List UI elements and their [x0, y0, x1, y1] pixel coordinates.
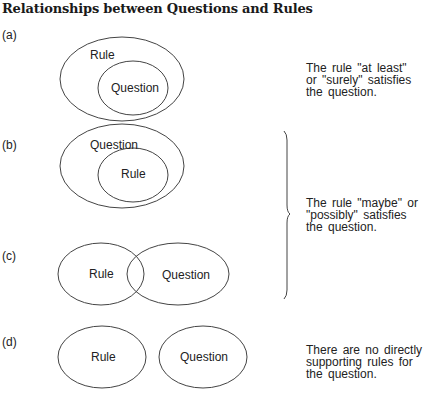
description-line: the question.	[306, 367, 377, 381]
description-a: The rule "at least" or "surely" satisfie…	[306, 62, 411, 98]
description-line: the question.	[306, 85, 377, 99]
description-d: There are no directly supporting rules f…	[306, 344, 422, 380]
question-outer-ellipse	[60, 124, 184, 208]
rule-label: Rule	[91, 350, 116, 364]
panel-d-venn: Rule Question	[58, 326, 247, 388]
panel-c-venn: Rule Question	[58, 243, 229, 305]
rule-outer-ellipse	[60, 37, 184, 121]
question-label: Question	[111, 81, 159, 95]
question-label: Question	[180, 350, 228, 364]
rule-label: Rule	[89, 267, 114, 281]
description-line: the question.	[306, 220, 377, 234]
question-label: Question	[90, 138, 138, 152]
right-brace-icon	[284, 131, 290, 299]
rule-label: Rule	[90, 48, 115, 62]
panel-a-venn: Rule Question	[60, 37, 184, 121]
panel-b-venn: Question Rule	[60, 124, 184, 208]
question-label: Question	[162, 268, 210, 282]
rule-label: Rule	[121, 167, 146, 181]
description-bc: The rule "maybe" or "possibly" satisfies…	[306, 197, 418, 233]
